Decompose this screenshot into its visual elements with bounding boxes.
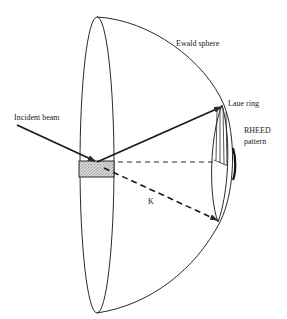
label-incident-beam: Incident beam — [14, 113, 60, 122]
label-laue-ring: Laue ring — [228, 99, 259, 108]
reflected-beam-arrow — [97, 107, 221, 162]
rheed-streaks — [214, 108, 228, 166]
label-ewald-sphere: Ewald sphere — [176, 39, 220, 48]
label-rheed-pattern: pattern — [244, 137, 266, 146]
label-k-vector: K — [148, 197, 154, 206]
incident-beam-arrow — [17, 125, 95, 161]
k-vector-arrow — [104, 168, 217, 220]
ewald-sphere-diagram: Ewald sphere Laue ring RHEED pattern Inc… — [0, 0, 287, 319]
sample — [79, 161, 114, 177]
label-rheed: RHEED — [244, 126, 271, 135]
rheed-pattern-screen — [233, 148, 235, 180]
